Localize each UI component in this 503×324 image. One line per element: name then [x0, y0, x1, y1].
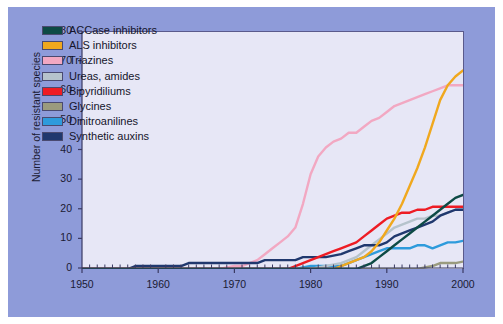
legend-item: Glycines — [42, 100, 157, 113]
legend-item: Bipyridiliums — [42, 85, 157, 98]
legend-label: Triazines — [69, 55, 113, 66]
x-tick-label: 1960 — [138, 278, 178, 290]
legend-label: Dinitroanilines — [69, 116, 138, 127]
legend-item: ALS inhibitors — [42, 39, 157, 52]
y-tick-label: 20 — [46, 202, 72, 214]
legend-swatch-icon — [42, 102, 63, 111]
y-tick-label: 40 — [46, 143, 72, 155]
legend-swatch-icon — [42, 117, 63, 126]
legend-item: ACCase inhibitors — [42, 24, 157, 37]
series-line-synthetic-auxins — [82, 210, 463, 269]
x-tick-label: 1980 — [291, 278, 331, 290]
legend-item: Synthetic auxins — [42, 130, 157, 143]
legend-label: Bipyridiliums — [69, 86, 131, 97]
y-axis-title: Number of resistant species — [30, 27, 42, 207]
legend-label: Ureas, amides — [69, 71, 140, 82]
y-tick-label: 10 — [46, 231, 72, 243]
legend-label: ALS inhibitors — [69, 40, 137, 51]
chart-figure: 01020304050607080 1950196019701980199020… — [8, 7, 495, 317]
legend-swatch-icon — [42, 132, 63, 141]
legend-swatch-icon — [42, 41, 63, 50]
legend-label: Synthetic auxins — [69, 131, 149, 142]
x-tick-label: 2000 — [443, 278, 483, 290]
legend-item: Triazines — [42, 54, 157, 67]
y-tick-label: 30 — [46, 172, 72, 184]
legend-item: Ureas, amides — [42, 70, 157, 83]
chart-legend: ACCase inhibitorsALS inhibitorsTriazines… — [42, 24, 157, 143]
x-tick-label: 1990 — [367, 278, 407, 290]
legend-item: Dinitroanilines — [42, 115, 157, 128]
series-line-dinitroanilines — [82, 241, 463, 269]
x-tick-label: 1970 — [214, 278, 254, 290]
legend-swatch-icon — [42, 72, 63, 81]
legend-swatch-icon — [42, 87, 63, 96]
legend-swatch-icon — [42, 56, 63, 65]
legend-swatch-icon — [42, 26, 63, 35]
legend-label: Glycines — [69, 101, 111, 112]
x-tick-label: 1950 — [62, 278, 102, 290]
legend-label: ACCase inhibitors — [69, 25, 157, 36]
y-tick-label: 0 — [46, 261, 72, 273]
